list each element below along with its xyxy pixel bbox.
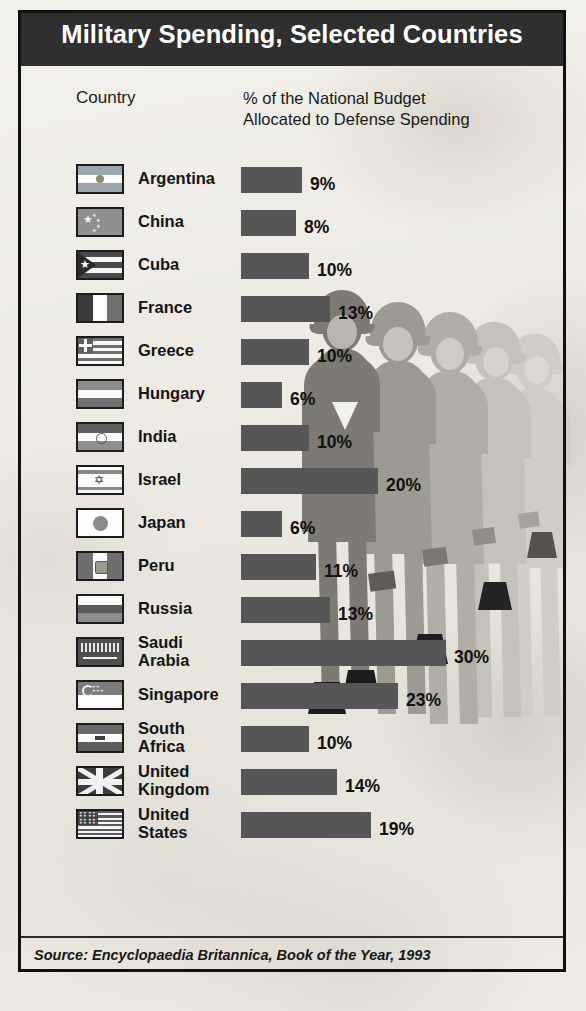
country-name: Peru: [138, 557, 175, 575]
flag-united-kingdom: [76, 766, 124, 796]
table-row: SouthAfrica10%: [0, 719, 586, 762]
percentage-label: 30%: [454, 647, 489, 668]
country-label-line1: Russia: [138, 599, 192, 617]
spending-bar: [241, 726, 309, 752]
spending-bar: [241, 468, 378, 494]
percentage-label: 6%: [290, 389, 315, 410]
flag-south-africa: [76, 723, 124, 753]
country-label-line2: Arabia: [138, 651, 189, 669]
country-label-line1: United: [138, 762, 189, 780]
spending-bar: [241, 425, 309, 451]
column-header-metric-line1: % of the National Budget: [243, 88, 470, 109]
percentage-label: 10%: [317, 346, 352, 367]
spending-bar: [241, 511, 282, 537]
spending-bar: [241, 640, 446, 666]
page-title: Military Spending, Selected Countries: [21, 20, 563, 49]
percentage-label: 20%: [386, 475, 421, 496]
table-row: Japan6%: [0, 504, 586, 547]
country-label-line2: Kingdom: [138, 780, 210, 798]
column-header-metric: % of the National Budget Allocated to De…: [243, 88, 470, 130]
spending-bar: [241, 167, 302, 193]
spending-bar: [241, 339, 309, 365]
spending-bar: [241, 296, 330, 322]
country-label-line1: Peru: [138, 556, 175, 574]
spending-bar: [241, 769, 337, 795]
country-label-line1: China: [138, 212, 184, 230]
spending-bar: [241, 554, 316, 580]
country-name: Israel: [138, 471, 181, 489]
percentage-label: 6%: [290, 518, 315, 539]
spending-bar: [241, 683, 398, 709]
country-name: China: [138, 213, 184, 231]
flag-israel: ✡: [76, 465, 124, 495]
flag-russia: [76, 594, 124, 624]
table-row: ✡Israel20%: [0, 461, 586, 504]
country-label-line1: Cuba: [138, 255, 179, 273]
country-label-line1: Japan: [138, 513, 186, 531]
percentage-label: 23%: [406, 690, 441, 711]
flag-hungary: [76, 379, 124, 409]
flag-united-states: ★★★★★★★★★★★★★★★★★★★★★★: [76, 809, 124, 839]
country-name: SouthAfrica: [138, 720, 185, 755]
table-row: Argentina9%: [0, 160, 586, 203]
table-row: ★★★★★★★★★★★★★★★★★★★★★★UnitedStates19%: [0, 805, 586, 848]
country-label-line1: Argentina: [138, 169, 215, 187]
table-row: ★★★★★Singapore23%: [0, 676, 586, 719]
flag-india: [76, 422, 124, 452]
percentage-label: 8%: [304, 217, 329, 238]
footer-divider: [21, 936, 563, 938]
percentage-label: 10%: [317, 260, 352, 281]
table-row: UnitedKingdom14%: [0, 762, 586, 805]
spending-bar: [241, 382, 282, 408]
country-label-line1: Hungary: [138, 384, 205, 402]
table-row: SaudiArabia30%: [0, 633, 586, 676]
table-row: Russia13%: [0, 590, 586, 633]
flag-argentina: [76, 164, 124, 194]
country-label-line2: States: [138, 823, 188, 841]
percentage-label: 10%: [317, 432, 352, 453]
country-name: India: [138, 428, 177, 446]
country-name: SaudiArabia: [138, 634, 189, 669]
country-name: UnitedStates: [138, 806, 189, 841]
country-name: Japan: [138, 514, 186, 532]
flag-cuba: ★: [76, 250, 124, 280]
country-label-line1: Greece: [138, 341, 194, 359]
table-row: ★★★★★China8%: [0, 203, 586, 246]
country-label-line1: Singapore: [138, 685, 219, 703]
country-name: France: [138, 299, 192, 317]
table-row: France13%: [0, 289, 586, 332]
flag-peru: [76, 551, 124, 581]
column-header-metric-line2: Allocated to Defense Spending: [243, 109, 470, 130]
country-label-line1: United: [138, 805, 189, 823]
percentage-label: 11%: [324, 561, 358, 582]
flag-greece: [76, 336, 124, 366]
percentage-label: 14%: [345, 776, 380, 797]
country-label-line1: South: [138, 719, 185, 737]
table-row: India10%: [0, 418, 586, 461]
percentage-label: 10%: [317, 733, 352, 754]
country-name: Russia: [138, 600, 192, 618]
country-name: Hungary: [138, 385, 205, 403]
percentage-label: 13%: [338, 604, 373, 625]
country-name: Cuba: [138, 256, 179, 274]
country-label-line1: Israel: [138, 470, 181, 488]
table-row: ★Cuba10%: [0, 246, 586, 289]
column-header-country: Country: [76, 88, 136, 108]
country-name: Singapore: [138, 686, 219, 704]
country-name: Greece: [138, 342, 194, 360]
country-label-line1: India: [138, 427, 177, 445]
table-row: Greece10%: [0, 332, 586, 375]
flag-china: ★★★★★: [76, 207, 124, 237]
flag-singapore: ★★★★★: [76, 680, 124, 710]
table-row: Hungary6%: [0, 375, 586, 418]
spending-bar: [241, 210, 296, 236]
country-label-line2: Africa: [138, 737, 185, 755]
country-label-line1: Saudi: [138, 633, 183, 651]
flag-saudi-arabia: [76, 637, 124, 667]
flag-france: [76, 293, 124, 323]
percentage-label: 19%: [379, 819, 414, 840]
flag-japan: [76, 508, 124, 538]
source-citation: Source: Encyclopaedia Britannica, Book o…: [34, 947, 430, 963]
table-row: Peru11%: [0, 547, 586, 590]
spending-bar: [241, 812, 371, 838]
